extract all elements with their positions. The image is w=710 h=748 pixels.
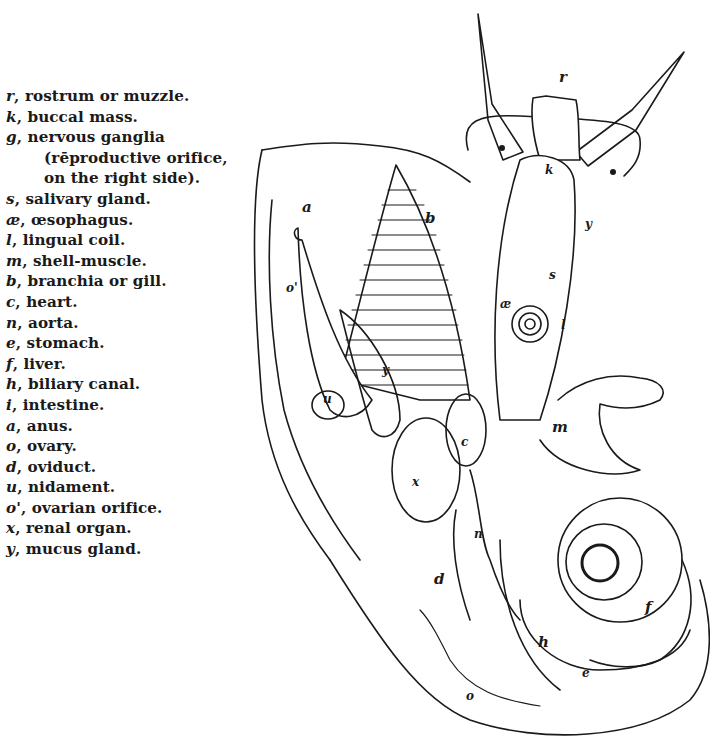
legend-item-oviduct: d, oviduct. <box>6 457 276 478</box>
label-ae: æ <box>500 297 511 311</box>
label-o-prime: o' <box>286 281 298 295</box>
label-r: r <box>559 68 568 86</box>
label-u: u <box>323 392 332 406</box>
mantle-top <box>262 143 470 182</box>
label-e: e <box>582 666 590 680</box>
buccal-column <box>495 156 575 420</box>
legend-item-salivary-gland: s, salivary gland. <box>6 189 276 210</box>
left-eye <box>499 145 505 151</box>
gill <box>340 165 470 400</box>
label-d: d <box>434 570 445 588</box>
legend-item-rostrum: r, rostrum or muzzle. <box>6 86 276 107</box>
right-eye <box>610 169 616 175</box>
legend-continuation: on the right side). <box>6 168 276 189</box>
label-y: y <box>381 363 390 377</box>
legend-item-nervous-ganglia: g, nervous ganglia (rēproductive orific… <box>6 127 276 189</box>
figure-legend: r, rostrum or muzzle. k, buccal mass. g,… <box>6 86 276 560</box>
liver-spiral-inner <box>582 545 618 581</box>
gill-lamellae <box>342 190 468 385</box>
legend-item-biliary-canal: h, biliary canal. <box>6 374 276 395</box>
legend-item-liver: f, liver. <box>6 354 276 375</box>
label-h: h <box>538 633 549 651</box>
left-tentacle <box>478 14 523 160</box>
legend-item-anus: a, anus. <box>6 416 276 437</box>
aorta <box>470 470 520 620</box>
legend-item-renal-organ: x, renal organ. <box>6 518 276 539</box>
label-b: b <box>425 209 436 227</box>
ovary <box>420 610 540 706</box>
label-s: s <box>549 268 556 282</box>
legend-item-branchia: b, branchia or gill. <box>6 271 276 292</box>
legend-item-ovarian-orifice: o', ovarian orifice. <box>6 498 276 519</box>
label-y-upper: y <box>584 217 593 231</box>
rostrum <box>532 96 580 160</box>
legend-item-heart: c, heart. <box>6 292 276 313</box>
legend-item-aorta: n, aorta. <box>6 313 276 334</box>
legend-continuation: (rēproductive orifice, <box>6 148 276 169</box>
renal-organ <box>392 418 460 522</box>
legend-item-shell-muscle: m, shell-muscle. <box>6 251 276 272</box>
label-n: n <box>474 527 483 541</box>
intestine-line <box>500 540 560 690</box>
label-m: m <box>552 418 568 436</box>
legend-item-oesophagus: æ, œsophagus. <box>6 210 276 231</box>
liver-spiral-mid <box>566 524 642 600</box>
legend-item-mucus-gland: y, mucus gland. <box>6 539 276 560</box>
body-bottom <box>330 560 709 735</box>
anatomy-illustration: r k y s æ l a b o' u y x c m n d f h e o <box>240 0 710 748</box>
liver-spiral-outer <box>558 498 682 622</box>
label-c: c <box>461 435 469 449</box>
legend-item-intestine: i, intestine. <box>6 395 276 416</box>
legend-item-ovary: o, ovary. <box>6 436 276 457</box>
label-x: x <box>411 475 420 489</box>
gastropod-anatomy-figure: r k y s æ l a b o' u y x c m n d f h e o <box>240 0 710 748</box>
label-l: l <box>561 318 566 332</box>
legend-item-nidament: u, nidament. <box>6 477 276 498</box>
legend-item-lingual-coil: l, lingual coil. <box>6 230 276 251</box>
legend-item-buccal-mass: k, buccal mass. <box>6 107 276 128</box>
right-tentacle <box>576 52 684 166</box>
heart <box>446 394 486 466</box>
label-o: o <box>466 689 474 703</box>
label-a: a <box>302 198 312 216</box>
label-k: k <box>545 163 553 177</box>
oviduct <box>454 510 470 620</box>
legend-item-stomach: e, stomach. <box>6 333 276 354</box>
